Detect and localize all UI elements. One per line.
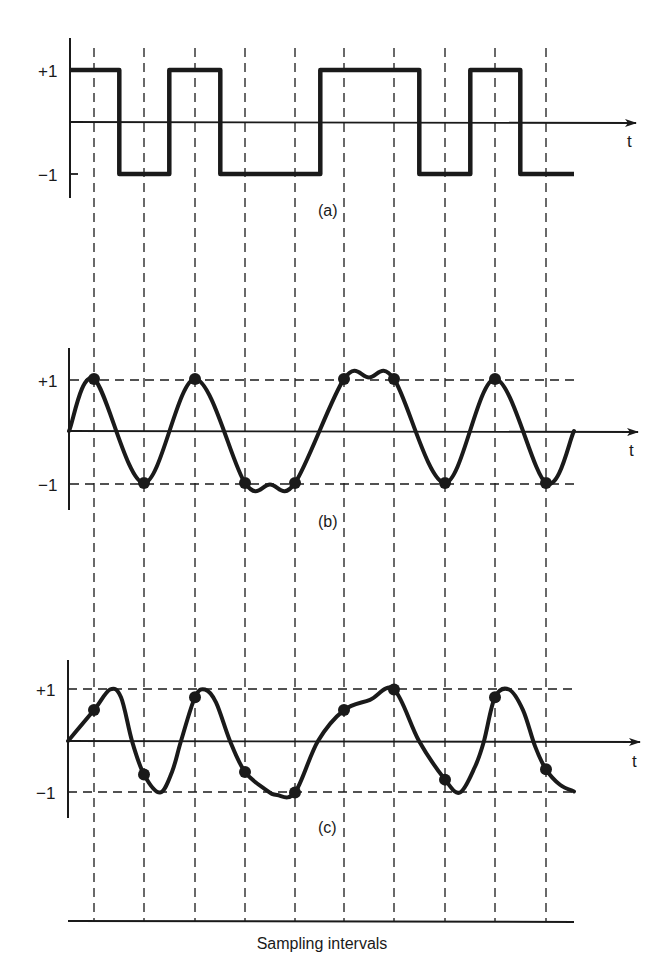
panel-a-time-axis [70,122,636,123]
panel-b-label: (b) [318,513,338,530]
panel-b-t-label: t [629,441,634,460]
sample-point [489,691,501,703]
panel-c-distorted-wave: +1 −1 t (c) [36,660,640,836]
sample-point [239,477,251,489]
sample-point [338,373,350,385]
sample-point [388,373,400,385]
panel-b-minus-one-label: −1 [38,476,57,495]
panel-b-plus-one-label: +1 [38,372,57,391]
isi-sampling-diagram: +1 −1 t (a) +1 −1 t (b) +1 −1 t (c) Samp… [0,0,671,966]
sample-point [388,684,400,696]
sample-point [540,477,552,489]
panel-c-plus-one-label: +1 [36,681,55,700]
panel-a-t-label: t [627,132,632,151]
sample-point [338,704,350,716]
sample-point [88,373,100,385]
sample-point [439,477,451,489]
panel-b-time-axis [69,431,638,432]
sample-point [138,768,150,780]
panel-c-time-axis [68,741,640,742]
sample-point [88,704,100,716]
sample-point [540,763,552,775]
panel-c-t-label: t [632,752,637,771]
sample-point [189,691,201,703]
panel-a-plus-one-label: +1 [38,62,57,81]
sampling-baseline [68,921,574,922]
sample-point [289,787,301,799]
sample-point [439,774,451,786]
panel-b-bandlimited-wave: +1 −1 t (b) [38,348,638,530]
sample-point [239,766,251,778]
panel-c-label: (c) [318,819,337,836]
panel-c-minus-one-label: −1 [36,784,55,803]
panel-a-minus-one-label: −1 [38,166,57,185]
sample-point [189,373,201,385]
sampling-intervals-caption: Sampling intervals [257,935,388,952]
sample-point [138,477,150,489]
sample-point [489,373,501,385]
sample-point [289,477,301,489]
panel-a-label: (a) [318,202,338,219]
